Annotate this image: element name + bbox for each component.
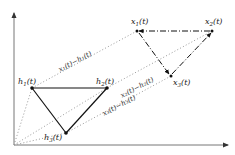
node-x1 [136, 30, 139, 33]
label-h3: h3(t) [44, 133, 62, 143]
node-h1 [30, 86, 34, 90]
node-x2 [211, 30, 214, 33]
label-x2: x2(t) [205, 17, 222, 27]
label-x3: x3(t) [173, 78, 190, 88]
formation-diagram: h1(t) h2(t) h3(t) x1(t) x2(t) x3(t) x₁(t… [0, 0, 235, 155]
label-x3-minus-h3: x₃(t)−h₃(t) [101, 93, 137, 117]
node-h2 [105, 86, 109, 90]
label-x1: x1(t) [131, 17, 148, 27]
offset-line-2-b [107, 31, 212, 88]
label-x2-minus-h2: x₂(t)−h₂(t) [119, 75, 155, 99]
node-h3 [64, 131, 68, 135]
label-h1: h1(t) [18, 77, 36, 87]
label-h2: h2(t) [96, 77, 114, 87]
reference-triangle [32, 88, 107, 133]
offset-line-1-a [14, 88, 32, 145]
label-x1-minus-h1: x₁(t)−h₁(t) [57, 49, 93, 73]
